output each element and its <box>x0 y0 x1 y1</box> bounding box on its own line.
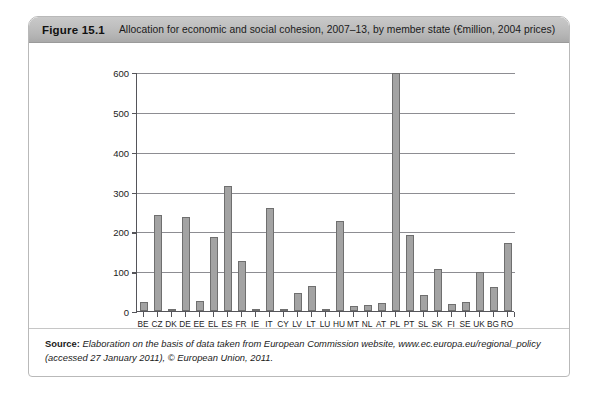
figure-number: Figure 15.1 <box>42 24 105 36</box>
x-axis-tick-mark <box>409 312 410 317</box>
bar <box>392 73 400 311</box>
bar <box>378 303 386 311</box>
bar <box>252 309 260 311</box>
x-axis-tick-mark <box>213 312 214 317</box>
bar <box>238 261 246 311</box>
x-axis-tick-mark <box>199 312 200 317</box>
figure-title: Allocation for economic and social cohes… <box>119 24 555 35</box>
bar <box>266 208 274 311</box>
bar <box>406 235 414 311</box>
x-axis-tick-mark <box>157 312 158 317</box>
y-axis-tick-mark <box>132 113 137 114</box>
bar <box>280 309 288 311</box>
x-axis-tick-mark <box>297 312 298 317</box>
y-axis-tick-label: 300 <box>113 187 129 198</box>
bar <box>462 302 470 311</box>
bar <box>490 287 498 311</box>
x-axis-tick-mark <box>339 312 340 317</box>
x-axis-tick-mark <box>143 312 144 317</box>
gridline <box>137 272 515 273</box>
x-axis-tick-mark <box>493 312 494 317</box>
bar-chart: 0100200300400500600 BECZDKDEEEELESFRIEIT… <box>29 43 569 335</box>
x-axis-tick-mark <box>255 312 256 317</box>
bar <box>294 293 302 311</box>
source-label: Source: <box>45 338 80 349</box>
bar <box>196 301 204 311</box>
y-axis-tick-label: 600 <box>113 68 129 79</box>
gridline <box>137 193 515 194</box>
bar <box>448 304 456 311</box>
x-axis-tick-mark <box>241 312 242 317</box>
y-axis-tick-label: 0 <box>124 307 129 318</box>
x-axis-tick-mark <box>395 312 396 317</box>
x-axis-tick-mark <box>514 312 515 317</box>
bar <box>154 215 162 311</box>
plot-area <box>136 73 514 312</box>
y-axis-tick-label: 200 <box>113 227 129 238</box>
y-axis-tick-mark <box>132 232 137 233</box>
bar <box>140 302 148 311</box>
source-text: Source: Elaboration on the basis of data… <box>45 337 547 366</box>
y-axis-tick-mark <box>132 272 137 273</box>
y-axis-tick-mark <box>132 73 137 74</box>
x-axis-tick-mark <box>283 312 284 317</box>
x-axis-tick-mark <box>185 312 186 317</box>
x-axis-tick-mark <box>367 312 368 317</box>
bar <box>434 269 442 311</box>
x-axis-tick-mark <box>507 312 508 317</box>
bar <box>322 309 330 311</box>
x-axis-tick-mark <box>381 312 382 317</box>
bar <box>308 286 316 311</box>
bar <box>336 221 344 311</box>
x-axis-tick-mark <box>325 312 326 317</box>
x-axis-tick-mark <box>269 312 270 317</box>
bar <box>224 186 232 311</box>
y-axis-tick-label: 400 <box>113 147 129 158</box>
x-axis-tick-mark <box>451 312 452 317</box>
gridline <box>137 113 515 114</box>
y-axis-tick-label: 500 <box>113 107 129 118</box>
x-axis-tick-mark <box>423 312 424 317</box>
x-axis-tick-mark <box>437 312 438 317</box>
figure-card: Figure 15.1 Allocation for economic and … <box>28 16 570 377</box>
y-axis-tick-label: 100 <box>113 267 129 278</box>
source-note: Source: Elaboration on the basis of data… <box>29 328 569 376</box>
bar <box>420 295 428 311</box>
y-axis-tick-mark <box>132 193 137 194</box>
bar <box>364 305 372 311</box>
x-axis-tick-mark <box>311 312 312 317</box>
source-body: Elaboration on the basis of data taken f… <box>45 338 541 364</box>
x-axis-tick-mark <box>171 312 172 317</box>
gridline <box>137 232 515 233</box>
gridline <box>137 153 515 154</box>
bar <box>210 237 218 311</box>
y-axis-tick-mark <box>132 153 137 154</box>
x-axis-tick-mark <box>479 312 480 317</box>
x-axis-tick-mark <box>227 312 228 317</box>
y-axis-labels: 0100200300400500600 <box>95 73 129 312</box>
bar <box>350 306 358 311</box>
bar <box>182 217 190 311</box>
x-axis-ticks <box>136 312 514 318</box>
figure-header: Figure 15.1 Allocation for economic and … <box>29 17 569 43</box>
bar <box>168 309 176 311</box>
bar <box>504 243 512 311</box>
x-axis-tick-mark <box>353 312 354 317</box>
x-axis-tick-mark <box>465 312 466 317</box>
bar <box>476 272 484 311</box>
gridline <box>137 73 515 74</box>
